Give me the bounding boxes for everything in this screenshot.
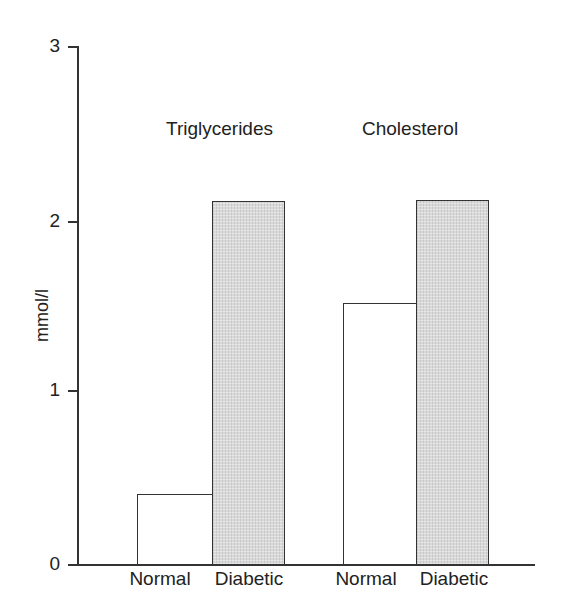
y-tick-label-3: 3 (30, 35, 60, 57)
y-tick-2 (68, 221, 77, 223)
y-tick-label-0: 0 (30, 553, 60, 575)
bar-triglycerides-normal (137, 494, 213, 565)
group-title-cholesterol: Cholesterol (362, 118, 458, 140)
x-label-cholesterol-diabetic: Diabetic (411, 568, 497, 590)
y-tick-label-2: 2 (30, 210, 60, 232)
y-tick-1 (68, 390, 77, 392)
y-axis-label: mmol/l (32, 286, 53, 346)
y-tick-label-1: 1 (30, 379, 60, 401)
bar-cholesterol-diabetic (416, 200, 489, 565)
y-tick-0 (68, 564, 77, 566)
bar-triglycerides-diabetic (212, 201, 285, 565)
x-label-triglycerides-normal: Normal (120, 568, 200, 590)
bar-cholesterol-normal (343, 303, 418, 565)
y-tick-3 (68, 46, 77, 48)
group-title-triglycerides: Triglycerides (166, 118, 273, 140)
x-label-cholesterol-normal: Normal (326, 568, 406, 590)
y-axis-line (77, 46, 79, 566)
x-label-triglycerides-diabetic: Diabetic (206, 568, 292, 590)
